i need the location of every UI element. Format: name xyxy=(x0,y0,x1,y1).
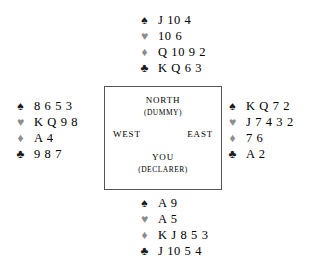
diamond-icon: ♦ xyxy=(14,130,27,146)
spade-icon: ♠ xyxy=(138,12,151,28)
compass-role-dummy: (DUMMY) xyxy=(105,108,221,117)
compass-label-west: WEST xyxy=(113,129,153,139)
compass-box: NORTH (DUMMY) WEST EAST YOU (DECLARER) xyxy=(104,86,222,190)
hand-north-spades-row: ♠ J 10 4 xyxy=(138,12,206,28)
spade-icon: ♠ xyxy=(226,98,239,114)
hand-north-diamonds: Q 10 9 2 xyxy=(151,44,206,60)
club-icon: ♣ xyxy=(14,146,27,162)
hand-south-hearts: A 5 xyxy=(151,211,178,227)
hand-south-clubs-row: ♣ J 10 5 4 xyxy=(138,243,209,259)
hand-east-clubs-row: ♣ A 2 xyxy=(226,146,294,162)
hand-east-diamonds: 7 6 xyxy=(239,130,263,146)
club-icon: ♣ xyxy=(138,60,151,76)
compass-label-you: YOU xyxy=(105,152,221,162)
hand-east: ♠ K Q 7 2 ♥ J 7 4 3 2 ♦ 7 6 ♣ A 2 xyxy=(226,98,294,162)
hand-east-hearts-row: ♥ J 7 4 3 2 xyxy=(226,114,294,130)
spade-icon: ♠ xyxy=(138,195,151,211)
club-icon: ♣ xyxy=(138,243,151,259)
hand-east-hearts: J 7 4 3 2 xyxy=(239,114,294,130)
hand-north-clubs: K Q 6 3 xyxy=(151,60,202,76)
hand-south-hearts-row: ♥ A 5 xyxy=(138,211,209,227)
hand-south-clubs: J 10 5 4 xyxy=(151,243,202,259)
hand-south-diamonds-row: ♦ K J 8 5 3 xyxy=(138,227,209,243)
hand-east-clubs: A 2 xyxy=(239,146,266,162)
hand-south-diamonds: K J 8 5 3 xyxy=(151,227,209,243)
hand-west-spades: 8 6 5 3 xyxy=(27,98,73,114)
compass-role-declarer: (DECLARER) xyxy=(105,165,221,174)
hand-north: ♠ J 10 4 ♥ 10 6 ♦ Q 10 9 2 ♣ K Q 6 3 xyxy=(138,12,206,76)
heart-icon: ♥ xyxy=(138,28,151,44)
hand-east-spades-row: ♠ K Q 7 2 xyxy=(226,98,294,114)
hand-west-hearts-row: ♥ K Q 9 8 xyxy=(14,114,78,130)
hand-west: ♠ 8 6 5 3 ♥ K Q 9 8 ♦ A 4 ♣ 9 8 7 xyxy=(14,98,78,162)
diamond-icon: ♦ xyxy=(138,227,151,243)
hand-west-hearts: K Q 9 8 xyxy=(27,114,78,130)
hand-east-spades: K Q 7 2 xyxy=(239,98,290,114)
hand-north-spades: J 10 4 xyxy=(151,12,191,28)
compass-label-east: EAST xyxy=(173,129,213,139)
compass-label-north: NORTH xyxy=(105,95,221,105)
heart-icon: ♥ xyxy=(226,114,239,130)
hand-west-clubs: 9 8 7 xyxy=(27,146,62,162)
hand-west-clubs-row: ♣ 9 8 7 xyxy=(14,146,78,162)
spade-icon: ♠ xyxy=(14,98,27,114)
hand-south: ♠ A 9 ♥ A 5 ♦ K J 8 5 3 ♣ J 10 5 4 xyxy=(138,195,209,259)
heart-icon: ♥ xyxy=(138,211,151,227)
hand-north-diamonds-row: ♦ Q 10 9 2 xyxy=(138,44,206,60)
hand-west-diamonds: A 4 xyxy=(27,130,54,146)
heart-icon: ♥ xyxy=(14,114,27,130)
hand-north-hearts-row: ♥ 10 6 xyxy=(138,28,206,44)
hand-north-hearts: 10 6 xyxy=(151,28,182,44)
club-icon: ♣ xyxy=(226,146,239,162)
diamond-icon: ♦ xyxy=(138,44,151,60)
hand-east-diamonds-row: ♦ 7 6 xyxy=(226,130,294,146)
hand-north-clubs-row: ♣ K Q 6 3 xyxy=(138,60,206,76)
hand-west-diamonds-row: ♦ A 4 xyxy=(14,130,78,146)
hand-south-spades: A 9 xyxy=(151,195,178,211)
hand-west-spades-row: ♠ 8 6 5 3 xyxy=(14,98,78,114)
diamond-icon: ♦ xyxy=(226,130,239,146)
hand-south-spades-row: ♠ A 9 xyxy=(138,195,209,211)
